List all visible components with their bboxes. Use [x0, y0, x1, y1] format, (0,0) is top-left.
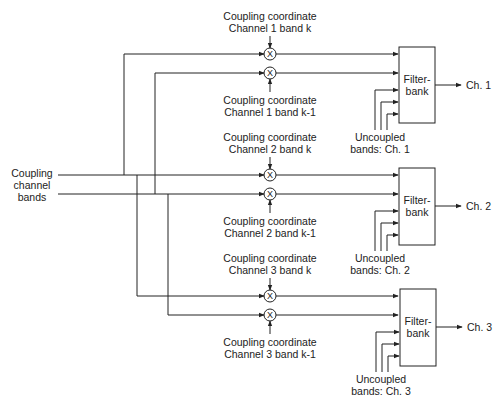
uncoupled-label-line2: bands: Ch. 3: [346, 385, 416, 397]
uncoupled-label-ch1: Uncoupled bands: Ch. 1: [345, 131, 415, 155]
coord-label-line1: Coupling coordinate: [210, 131, 330, 143]
output-label-ch2: Ch. 2: [466, 200, 491, 212]
uncoupled-label-ch2: Uncoupled bands: Ch. 2: [345, 252, 415, 276]
multiplier-symbol: X: [264, 188, 276, 200]
filterbank-label-line1: Filter-: [399, 73, 435, 85]
coord-label-ch2-k1: Coupling coordinate Channel 2 band k-1: [210, 215, 330, 239]
uncoupled-label-line2: bands: Ch. 2: [345, 264, 415, 276]
uncoupled-label-line2: bands: Ch. 1: [345, 143, 415, 155]
filterbank-label-line1: Filter-: [400, 315, 436, 327]
filterbank-label-ch1: Filter- bank: [399, 73, 435, 97]
filterbank-label-line2: bank: [399, 85, 435, 97]
coord-label-line1: Coupling coordinate: [210, 215, 330, 227]
coord-label-ch2-k: Coupling coordinate Channel 2 band k: [210, 131, 330, 155]
multiplier-symbol: X: [264, 48, 276, 60]
output-label-ch3: Ch. 3: [467, 321, 492, 333]
filterbank-label-line2: bank: [399, 206, 435, 218]
filterbank-label-line2: bank: [400, 327, 436, 339]
coord-label-line1: Coupling coordinate: [210, 94, 330, 106]
coord-label-ch1-k1: Coupling coordinate Channel 1 band k-1: [210, 94, 330, 118]
coord-label-line1: Coupling coordinate: [210, 10, 330, 22]
multiplier-symbol: X: [264, 290, 276, 302]
uncoupled-label-line1: Uncoupled: [345, 252, 415, 264]
filterbank-label-ch3: Filter- bank: [400, 315, 436, 339]
coord-label-line2: Channel 2 band k-1: [210, 227, 330, 239]
output-label-ch1: Ch. 1: [466, 79, 491, 91]
coord-label-ch3-k: Coupling coordinate Channel 3 band k: [210, 252, 330, 276]
coord-label-line2: Channel 3 band k: [210, 264, 330, 276]
multiplier-symbol: X: [264, 169, 276, 181]
coord-label-line2: Channel 1 band k-1: [210, 106, 330, 118]
filterbank-label-line1: Filter-: [399, 194, 435, 206]
filterbank-label-ch2: Filter- bank: [399, 194, 435, 218]
coord-label-ch3-k1: Coupling coordinate Channel 3 band k-1: [210, 336, 330, 360]
input-label-line1: Coupling: [8, 167, 56, 179]
coord-label-line1: Coupling coordinate: [210, 336, 330, 348]
coord-label-line1: Coupling coordinate: [210, 252, 330, 264]
coord-label-line2: Channel 3 band k-1: [210, 348, 330, 360]
input-label: Coupling channel bands: [8, 167, 56, 203]
multiplier-symbol: X: [264, 67, 276, 79]
multiplier-symbol: X: [264, 309, 276, 321]
coord-label-line2: Channel 1 band k: [210, 22, 330, 34]
coord-label-line2: Channel 2 band k: [210, 143, 330, 155]
coord-label-ch1-k: Coupling coordinate Channel 1 band k: [210, 10, 330, 34]
input-label-line2: channel: [8, 179, 56, 191]
uncoupled-label-line1: Uncoupled: [345, 131, 415, 143]
uncoupled-label-line1: Uncoupled: [346, 373, 416, 385]
input-label-line3: bands: [8, 191, 56, 203]
uncoupled-label-ch3: Uncoupled bands: Ch. 3: [346, 373, 416, 397]
